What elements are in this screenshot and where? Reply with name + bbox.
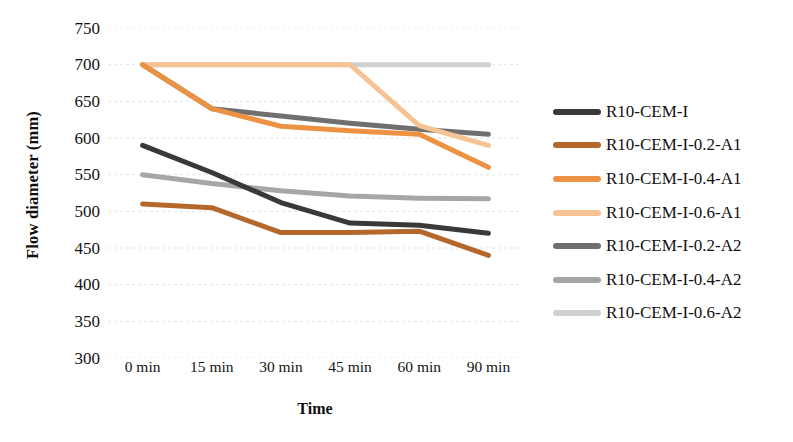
x-axis-tick-label: 30 min: [246, 358, 316, 376]
plot-svg: [108, 28, 523, 358]
legend-label: R10-CEM-I: [606, 102, 688, 122]
x-axis-tick-label: 0 min: [108, 358, 178, 376]
legend-item[interactable]: R10-CEM-I-0.6-A1: [553, 196, 789, 230]
y-axis-tick-label: 600: [40, 130, 100, 147]
series-line: [143, 145, 489, 233]
y-axis-tick-label: 550: [40, 166, 100, 183]
x-axis-tick-label: 90 min: [453, 358, 523, 376]
series-lines: [143, 65, 489, 256]
x-axis-tick-labels: 0 min15 min30 min45 min60 min90 min: [0, 358, 793, 388]
series-line: [143, 65, 489, 168]
y-axis-tick-label: 750: [40, 20, 100, 37]
y-axis-tick-label: 450: [40, 240, 100, 257]
y-axis-tick-label: 350: [40, 313, 100, 330]
legend-label: R10-CEM-I-0.6-A1: [606, 203, 742, 223]
flow-diameter-line-chart: Flow diameter (mm) 300350400450500550600…: [0, 0, 793, 442]
legend-item[interactable]: R10-CEM-I-0.4-A2: [553, 263, 789, 297]
series-line: [143, 65, 489, 146]
y-axis-tick-label: 500: [40, 203, 100, 220]
legend-color-swatch: [553, 210, 601, 216]
chart-legend: R10-CEM-IR10-CEM-I-0.2-A1R10-CEM-I-0.4-A…: [553, 95, 789, 330]
legend-item[interactable]: R10-CEM-I-0.2-A2: [553, 229, 789, 263]
y-axis-tick-label: 650: [40, 93, 100, 110]
x-axis-tick-label: 15 min: [177, 358, 247, 376]
plot-area: [108, 28, 523, 358]
legend-color-swatch: [553, 243, 601, 249]
series-line: [143, 175, 489, 199]
legend-color-swatch: [553, 310, 601, 316]
legend-color-swatch: [553, 142, 601, 148]
x-axis-tick-label: 45 min: [315, 358, 385, 376]
y-axis-tick-label: 400: [40, 276, 100, 293]
legend-label: R10-CEM-I-0.2-A1: [606, 135, 742, 155]
y-axis-tick-label: 700: [40, 56, 100, 73]
legend-color-swatch: [553, 277, 601, 283]
legend-label: R10-CEM-I-0.2-A2: [606, 236, 742, 256]
x-axis-tick-label: 60 min: [384, 358, 454, 376]
legend-label: R10-CEM-I-0.4-A1: [606, 169, 742, 189]
legend-item[interactable]: R10-CEM-I: [553, 95, 789, 129]
legend-item[interactable]: R10-CEM-I-0.2-A1: [553, 129, 789, 163]
legend-label: R10-CEM-I-0.6-A2: [606, 303, 742, 323]
legend-color-swatch: [553, 109, 601, 115]
x-axis-title: Time: [100, 400, 530, 418]
legend-color-swatch: [553, 176, 601, 182]
legend-item[interactable]: R10-CEM-I-0.6-A2: [553, 297, 789, 331]
legend-label: R10-CEM-I-0.4-A2: [606, 270, 742, 290]
legend-item[interactable]: R10-CEM-I-0.4-A1: [553, 162, 789, 196]
